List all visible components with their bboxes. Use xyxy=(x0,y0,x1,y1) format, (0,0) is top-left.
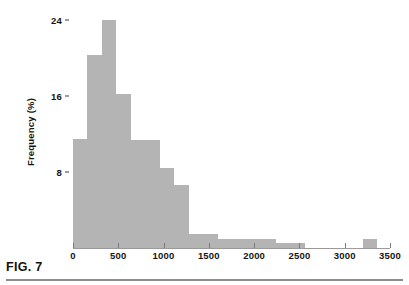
x-axis-tick xyxy=(73,243,74,248)
histogram-bar xyxy=(160,168,174,248)
x-axis-tick xyxy=(345,243,346,248)
y-axis-title: Frequency (%) xyxy=(25,98,36,166)
y-axis-tick-label: 16 xyxy=(48,91,62,102)
histogram-bar xyxy=(87,55,101,248)
x-axis-tick xyxy=(164,243,165,248)
histogram-bar xyxy=(189,234,203,248)
y-axis-tick-dash xyxy=(65,20,69,21)
y-axis-tick-label: 8 xyxy=(48,167,62,178)
histogram-bar xyxy=(261,239,275,248)
histogram-plot: 0500100015002000250030003500 81624 Frequ… xyxy=(0,0,409,258)
histogram-bar xyxy=(203,234,217,248)
x-axis-tick xyxy=(209,243,210,248)
x-axis-tick xyxy=(299,243,300,248)
histogram-bar xyxy=(145,140,159,248)
histogram-bar xyxy=(73,139,87,248)
caption-divider xyxy=(6,279,403,281)
histogram-bar xyxy=(131,140,145,248)
histogram-bar xyxy=(116,94,130,248)
x-axis-line xyxy=(73,248,390,249)
histogram-bar xyxy=(102,20,116,248)
figure-caption-block: FIG. 7 xyxy=(0,260,409,285)
histogram-bar xyxy=(174,185,188,248)
x-axis-tick xyxy=(390,243,391,248)
figure-container: 0500100015002000250030003500 81624 Frequ… xyxy=(0,0,409,285)
x-axis-tick xyxy=(254,243,255,248)
figure-caption-label: FIG. 7 xyxy=(6,260,43,274)
y-axis-tick-dash xyxy=(65,172,69,173)
x-axis-tick xyxy=(118,243,119,248)
histogram-bar xyxy=(218,239,232,248)
histogram-bar xyxy=(363,239,377,248)
histogram-bar xyxy=(232,239,246,248)
y-axis-tick-label: 24 xyxy=(48,15,62,26)
y-axis-tick-dash xyxy=(65,96,69,97)
